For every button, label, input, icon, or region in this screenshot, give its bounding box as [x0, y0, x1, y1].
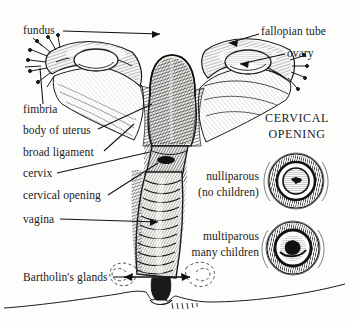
label-bartholins-glands: Bartholin's glands: [23, 271, 108, 284]
label-broad-ligament: broad ligament: [23, 146, 94, 159]
cervix-nulliparous-diagram: [264, 153, 328, 209]
label-multiparous: multiparous: [168, 230, 259, 243]
label-fallopian-tube: fallopian tube: [261, 25, 326, 38]
panel-title-line1: CERVICAL: [248, 112, 346, 126]
label-ovary: ovary: [287, 47, 314, 60]
label-fimbria: fimbria: [23, 103, 58, 116]
cervix-multiparous-diagram: [262, 221, 324, 275]
label-body-of-uterus: body of uterus: [23, 124, 91, 137]
panel-title-line2: OPENING: [248, 128, 346, 142]
ovary-left: [74, 49, 118, 71]
label-vagina: vagina: [23, 213, 54, 226]
leader-fimbria: [40, 68, 43, 104]
perineum-contour: [4, 284, 345, 308]
label-nulliparous-detail: (no children): [168, 186, 259, 199]
label-cervical-opening: cervical opening: [23, 189, 101, 202]
label-fundus: fundus: [23, 24, 55, 37]
label-multiparous-detail: many children: [162, 246, 259, 259]
cervical-os: [157, 156, 175, 164]
label-cervix: cervix: [23, 167, 52, 180]
vaginal-opening: [150, 278, 197, 309]
leader-fundus: [63, 31, 160, 34]
label-nulliparous: nulliparous: [168, 170, 259, 183]
cervical-opening-panel: [262, 153, 328, 275]
